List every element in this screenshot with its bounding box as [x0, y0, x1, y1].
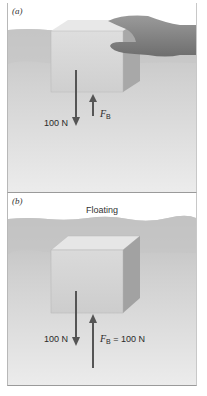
panel-b-floating: (b) Floating 100 N FB = 100 N — [7, 193, 197, 386]
panel-caption: Floating — [8, 205, 196, 215]
block-front — [51, 250, 123, 313]
panel-b-illustration — [8, 193, 197, 386]
weight-label: 100 N — [44, 118, 68, 128]
weight-label: 100 N — [44, 334, 68, 344]
buoyant-force-label: FB — [100, 108, 111, 120]
panel-a-submerged: (a) 100 N FB — [7, 3, 197, 193]
block-front — [51, 31, 123, 92]
panel-label: (a) — [12, 6, 23, 16]
buoyant-force-label: FB = 100 N — [100, 333, 145, 345]
panel-a-illustration — [8, 3, 197, 193]
